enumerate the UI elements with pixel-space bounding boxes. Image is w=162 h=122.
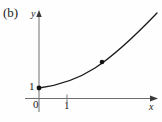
figure-panel-b: (b) y x 1 0 1 [0, 0, 162, 122]
x-tick-label-1: 1 [64, 100, 70, 111]
x-axis-label: x [149, 102, 153, 112]
y-axis-arrow-icon [36, 10, 41, 17]
graph-canvas [0, 0, 162, 122]
point-on-curve [100, 60, 105, 65]
point-y-intercept [37, 86, 42, 91]
panel-label: (b) [3, 6, 18, 19]
y-tick-label-1: 1 [29, 81, 35, 92]
y-axis-label: y [31, 9, 35, 19]
exponential-curve [39, 13, 157, 88]
origin-label: 0 [33, 99, 39, 110]
